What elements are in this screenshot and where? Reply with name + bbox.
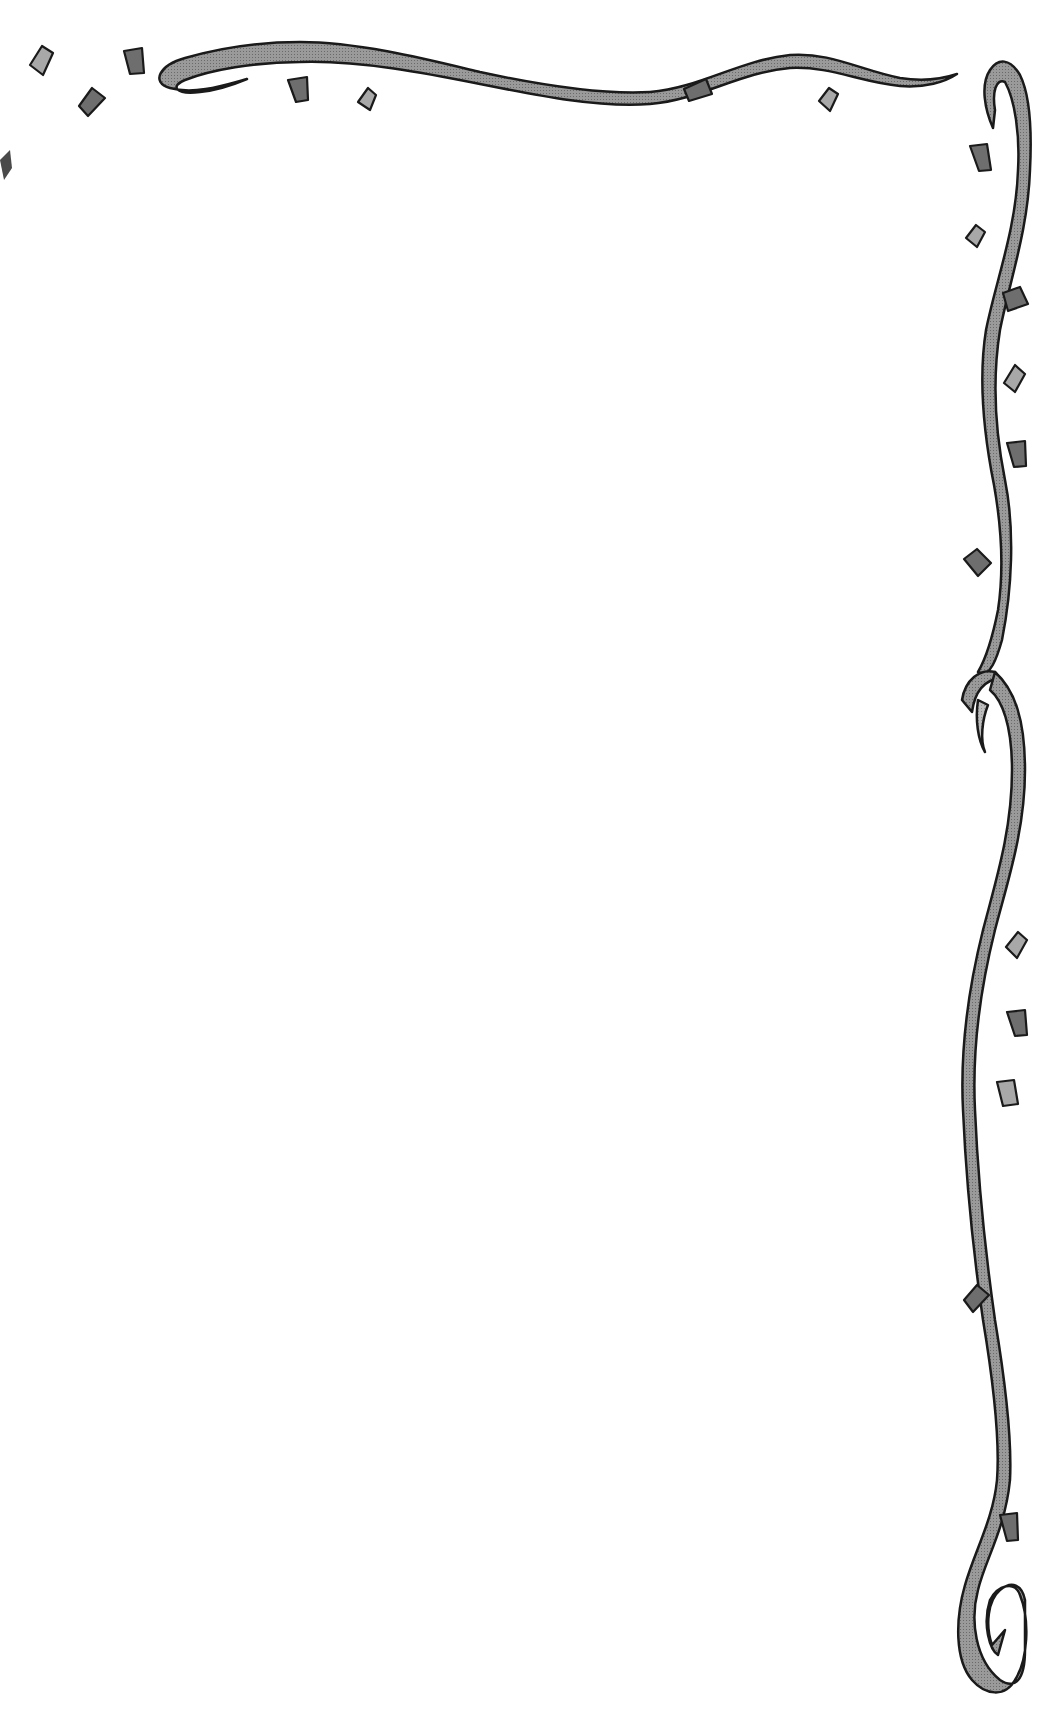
- confetti-piece: [288, 77, 308, 102]
- confetti-piece: [966, 225, 985, 247]
- confetti-piece: [964, 549, 991, 576]
- confetti-piece: [970, 144, 991, 171]
- confetti-piece: [0, 150, 12, 180]
- confetti-piece: [1006, 932, 1027, 958]
- confetti-piece: [1007, 441, 1026, 467]
- confetti-piece: [1000, 1513, 1018, 1541]
- confetti-piece: [819, 88, 838, 111]
- confetti-piece: [1003, 287, 1028, 311]
- confetti-piece: [1004, 365, 1025, 392]
- confetti-piece: [1007, 1010, 1027, 1036]
- confetti-piece: [79, 88, 105, 116]
- confetti-piece: [358, 88, 376, 110]
- confetti-piece: [684, 79, 712, 101]
- confetti-piece: [30, 46, 53, 75]
- confetti-piece: [997, 1080, 1018, 1106]
- stationery-page: [0, 0, 1059, 1731]
- confetti-piece: [124, 48, 144, 74]
- blank-writing-area: [60, 170, 940, 1670]
